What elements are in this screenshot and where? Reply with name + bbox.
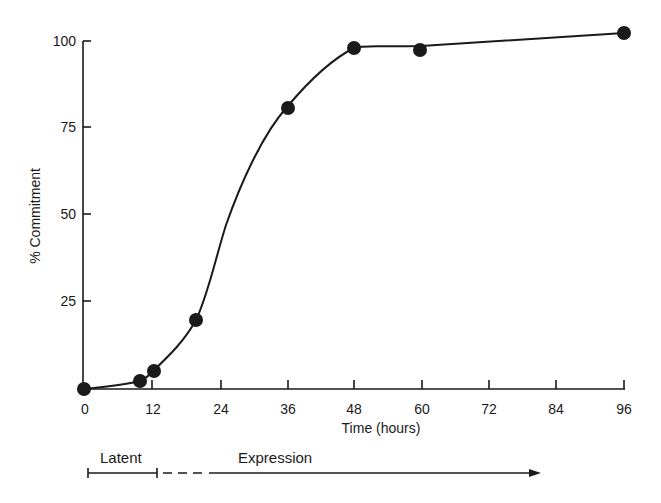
commitment-chart: 100 75 50 25 % Commitment 0 12 24 36 48 …	[0, 0, 661, 503]
x-axis-title: Time (hours)	[342, 420, 421, 436]
data-point	[77, 382, 91, 396]
x-tick-84: 84	[548, 401, 564, 417]
x-tick-36: 36	[280, 401, 296, 417]
x-tick-0: 0	[81, 401, 89, 417]
data-point	[413, 43, 427, 57]
x-tick-96: 96	[616, 401, 632, 417]
y-axis	[83, 41, 91, 389]
x-tick-24: 24	[213, 401, 229, 417]
arrow-head-icon	[529, 469, 541, 477]
x-tick-60: 60	[414, 401, 430, 417]
data-point	[133, 374, 147, 388]
y-tick-75: 75	[60, 119, 76, 135]
commitment-curve	[84, 33, 624, 389]
data-point	[617, 26, 631, 40]
expression-label: Expression	[238, 449, 312, 466]
y-tick-labels: 100 75 50 25	[53, 33, 77, 309]
x-tick-72: 72	[481, 401, 497, 417]
data-point	[347, 41, 361, 55]
data-point	[189, 313, 203, 327]
data-markers	[77, 26, 631, 396]
y-tick-100: 100	[53, 33, 77, 49]
y-tick-50: 50	[60, 206, 76, 222]
data-point	[281, 101, 295, 115]
phase-timeline	[88, 468, 532, 478]
x-tick-48: 48	[346, 401, 362, 417]
y-axis-title: % Commitment	[27, 168, 43, 264]
data-point	[147, 364, 161, 378]
x-tick-labels: 0 12 24 36 48 60 72 84 96	[81, 401, 632, 417]
y-tick-25: 25	[60, 293, 76, 309]
x-tick-12: 12	[145, 401, 161, 417]
x-axis	[83, 380, 625, 389]
latent-label: Latent	[100, 449, 143, 466]
